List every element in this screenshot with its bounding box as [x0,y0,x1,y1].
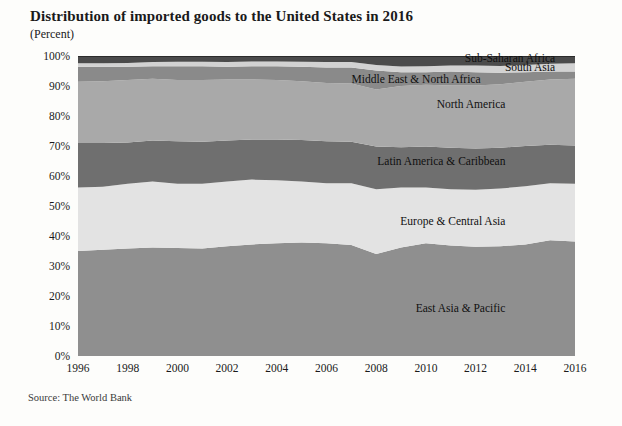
x-axis-tick-label: 2010 [414,362,437,374]
x-axis-tick-label: 1998 [116,362,139,374]
series-label: Middle East & North Africa [352,73,481,85]
chart-page: Distribution of imported goods to the Un… [0,0,622,426]
x-axis-tick-label: 2008 [365,362,388,374]
x-axis-tick-label: 1996 [67,362,90,374]
x-axis-tick-label: 2014 [514,362,537,374]
series-label: Latin America & Caribbean [377,155,505,167]
x-axis-tick-label: 2002 [216,362,239,374]
x-axis-tick-label: 2006 [315,362,338,374]
series-label: East Asia & Pacific [416,302,506,314]
series-label: Europe & Central Asia [400,215,505,227]
series-label: North America [437,98,506,110]
source-note: Source: The World Bank [28,392,132,403]
series-label: Sub-Saharan Africa [465,52,555,64]
x-axis-tick-label: 2000 [166,362,189,374]
x-axis-tick-label: 2004 [265,362,288,374]
x-axis-tick-label: 2012 [464,362,487,374]
x-axis-tick-label: 2016 [564,362,587,374]
